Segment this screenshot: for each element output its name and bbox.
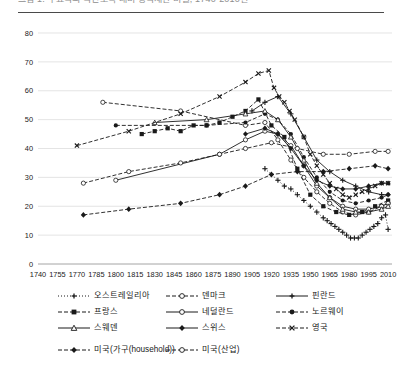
legend-item[interactable]: 노르웨이 (275, 306, 344, 318)
x-axis-tick-label: 1935 (283, 270, 299, 279)
figure-caption: 그림 1. 주요국의 국민소득 대비 상속재산 비율, 1740-2010년 (18, 0, 384, 8)
y-axis-tick-label: 80 (25, 29, 33, 38)
x-axis-tick-label: 1890 (224, 270, 240, 279)
legend-symbol (275, 306, 309, 318)
series-line (101, 100, 390, 217)
x-axis-tick-label: 1770 (69, 270, 85, 279)
legend-line-icon (165, 306, 199, 318)
legend-line-icon (165, 290, 199, 302)
legend-label: 미국(산업) (199, 345, 239, 355)
legend-label: 오스트레일리아 (91, 291, 150, 301)
x-axis-tick-label: 1860 (185, 270, 201, 279)
legend-symbol (165, 306, 199, 318)
x-axis-tick-label: 1920 (263, 270, 279, 279)
y-axis-tick-label: 30 (25, 173, 33, 182)
x-axis-tick-label: 1905 (244, 270, 260, 279)
y-axis-tick-label: 70 (25, 58, 33, 67)
legend-row: 미국(가구(household))미국(산업) (0, 342, 402, 358)
x-axis-tick-label: 1965 (322, 270, 338, 279)
legend-item[interactable]: 스위스 (165, 322, 275, 334)
series-line (114, 112, 391, 206)
x-axis-tick-label: 1875 (205, 270, 221, 279)
legend-row: 스웨덴스위스영국 (0, 320, 402, 336)
y-axis-tick-label: 0 (29, 260, 33, 269)
legend-label: 영국 (309, 323, 328, 333)
legend-symbol (165, 344, 199, 356)
legend-line-icon (57, 290, 91, 302)
plot-area: 0102030405060708017401755177017851800181… (0, 14, 402, 286)
x-axis-tick-label: 1815 (127, 270, 143, 279)
legend-label: 미국(가구(household)) (91, 345, 175, 355)
x-axis-tick-label: 1845 (166, 270, 182, 279)
x-axis-tick-label: 2010 (380, 270, 396, 279)
legend-symbol (165, 290, 199, 302)
x-axis-tick-label: 1995 (360, 270, 376, 279)
y-axis-tick-label: 10 (25, 231, 33, 240)
legend-item[interactable]: 핀란드 (275, 290, 336, 302)
legend-item[interactable]: 오스트레일리아 (57, 290, 165, 302)
figure-caption-text: 그림 1. 주요국의 국민소득 대비 상속재산 비율, 1740-2010년 (18, 0, 384, 4)
legend-symbol (275, 290, 309, 302)
legend-line-icon (275, 322, 309, 334)
legend-item[interactable]: 영국 (275, 322, 328, 334)
legend-symbol (57, 306, 91, 318)
chart-figure: 그림 1. 주요국의 국민소득 대비 상속재산 비율, 1740-2010년 0… (0, 0, 402, 372)
legend-line-icon (275, 290, 309, 302)
legend-symbol (165, 322, 199, 334)
x-axis-tick-label: 1950 (302, 270, 318, 279)
legend-line-icon (57, 306, 91, 318)
y-axis-tick-label: 20 (25, 202, 33, 211)
x-axis-tick-label: 1755 (49, 270, 65, 279)
legend-item[interactable]: 네덜란드 (165, 306, 275, 318)
legend-item[interactable]: 미국(산업) (165, 344, 275, 356)
legend-item[interactable]: 스웨덴 (57, 322, 165, 334)
legend-item[interactable]: 미국(가구(household)) (57, 344, 165, 356)
legend-label: 핀란드 (309, 291, 336, 301)
inheritance-ratio-line-chart: 0102030405060708017401755177017851800181… (0, 14, 402, 286)
y-axis-tick-label: 50 (25, 115, 33, 124)
y-axis-tick-label: 40 (25, 144, 33, 153)
legend-symbol (275, 322, 309, 334)
legend-symbol (57, 290, 91, 302)
x-axis-tick-label: 1740 (30, 270, 46, 279)
legend-line-icon (275, 306, 309, 318)
chart-legend: 오스트레일리아덴마크핀란드프랑스네덜란드노르웨이스웨덴스위스영국미국(가구(ho… (0, 288, 402, 366)
legend-item[interactable]: 프랑스 (57, 306, 165, 318)
legend-row: 프랑스네덜란드노르웨이 (0, 304, 402, 320)
legend-symbol (57, 322, 91, 334)
caption-divider (18, 12, 384, 13)
legend-label: 프랑스 (91, 307, 118, 317)
series-line (81, 141, 390, 186)
legend-label: 스웨덴 (91, 323, 118, 333)
x-axis-tick-label: 1785 (88, 270, 104, 279)
legend-label: 네덜란드 (199, 307, 234, 317)
legend-line-icon (57, 322, 91, 334)
x-axis-tick-label: 1980 (341, 270, 357, 279)
legend-item[interactable]: 덴마크 (165, 290, 275, 302)
y-axis-tick-label: 60 (25, 86, 33, 95)
x-axis-tick-label: 1830 (146, 270, 162, 279)
legend-symbol (57, 344, 91, 356)
legend-label: 스위스 (199, 323, 226, 333)
x-axis-tick-label: 1800 (108, 270, 124, 279)
legend-label: 덴마크 (199, 291, 226, 301)
legend-line-icon (57, 344, 91, 356)
legend-row: 오스트레일리아덴마크핀란드 (0, 288, 402, 304)
legend-label: 노르웨이 (309, 307, 344, 317)
legend-line-icon (165, 322, 199, 334)
legend-line-icon (165, 344, 199, 356)
